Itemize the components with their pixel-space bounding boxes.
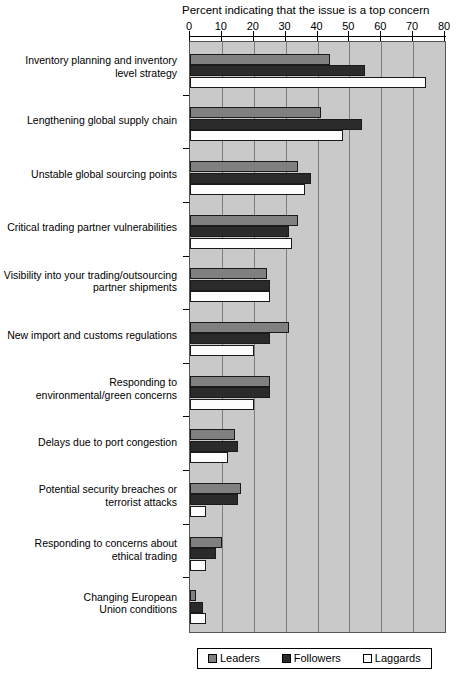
bar-laggards xyxy=(190,291,270,302)
bar-laggards xyxy=(190,184,305,195)
legend-swatch-followers xyxy=(282,654,291,663)
bar-group xyxy=(190,149,445,203)
category-label: New import and customs regulations xyxy=(0,329,177,342)
chart-root: Percent indicating that the issue is a t… xyxy=(0,0,464,684)
bar-group xyxy=(190,310,445,364)
bar-followers xyxy=(190,602,203,613)
category-label: Unstable global sourcing points xyxy=(0,168,177,181)
category-label: Critical trading partner vulnerabilities xyxy=(0,221,177,234)
bar-laggards xyxy=(190,506,206,517)
bar-group xyxy=(190,364,445,418)
plot-area xyxy=(189,41,446,633)
bar-laggards xyxy=(190,399,254,410)
legend-item-leaders[interactable]: Leaders xyxy=(208,652,260,665)
legend-item-laggards[interactable]: Laggards xyxy=(363,652,421,665)
bar-leaders xyxy=(190,107,321,118)
bar-followers xyxy=(190,548,216,559)
legend-swatch-leaders xyxy=(208,654,217,663)
bar-followers xyxy=(190,173,311,184)
legend-item-followers[interactable]: Followers xyxy=(282,652,341,665)
legend-label: Leaders xyxy=(220,652,260,665)
bar-group xyxy=(190,578,445,632)
bar-group xyxy=(190,96,445,150)
category-label: Potential security breaches orterrorist … xyxy=(0,483,177,508)
category-label: Visibility into your trading/outsourcing… xyxy=(0,269,177,294)
bar-leaders xyxy=(190,590,196,601)
bar-leaders xyxy=(190,161,298,172)
category-label-line: Delays due to port congestion xyxy=(0,436,177,449)
category-label-line: ethical trading xyxy=(0,550,177,563)
y-axis-category-labels: Inventory planning and inventorylevel st… xyxy=(0,41,185,633)
category-label-line: terrorist attacks xyxy=(0,496,177,509)
bar-laggards xyxy=(190,452,228,463)
bar-group xyxy=(190,471,445,525)
category-label-line: Potential security breaches or xyxy=(0,483,177,496)
bar-laggards xyxy=(190,613,206,624)
bar-leaders xyxy=(190,215,298,226)
legend-label: Followers xyxy=(294,652,341,665)
category-label-line: level strategy xyxy=(0,67,177,80)
bar-followers xyxy=(190,65,365,76)
bar-followers xyxy=(190,441,238,452)
bar-laggards xyxy=(190,560,206,571)
bar-group xyxy=(190,257,445,311)
category-label-line: partner shipments xyxy=(0,281,177,294)
bar-followers xyxy=(190,226,289,237)
category-label-line: Lengthening global supply chain xyxy=(0,114,177,127)
category-label-line: New import and customs regulations xyxy=(0,329,177,342)
bar-followers xyxy=(190,387,270,398)
x-axis-tick-labels: 01020304050607080 xyxy=(189,20,446,34)
bar-group xyxy=(190,417,445,471)
category-label: Responding toenvironmental/green concern… xyxy=(0,376,177,401)
category-label-line: Unstable global sourcing points xyxy=(0,168,177,181)
bar-leaders xyxy=(190,54,330,65)
bar-leaders xyxy=(190,429,235,440)
bar-group xyxy=(190,42,445,96)
bar-leaders xyxy=(190,268,267,279)
legend-label: Laggards xyxy=(375,652,421,665)
bar-laggards xyxy=(190,345,254,356)
bar-group xyxy=(190,203,445,257)
category-label: Inventory planning and inventorylevel st… xyxy=(0,54,177,79)
category-label-line: environmental/green concerns xyxy=(0,389,177,402)
category-label-line: Inventory planning and inventory xyxy=(0,54,177,67)
category-label: Changing EuropeanUnion conditions xyxy=(0,591,177,616)
legend-swatch-laggards xyxy=(363,654,372,663)
category-label: Responding to concerns aboutethical trad… xyxy=(0,537,177,562)
bar-leaders xyxy=(190,322,289,333)
category-label-line: Union conditions xyxy=(0,603,177,616)
category-label-line: Responding to concerns about xyxy=(0,537,177,550)
chart-title: Percent indicating that the issue is a t… xyxy=(182,4,464,17)
bar-followers xyxy=(190,494,238,505)
category-label: Delays due to port congestion xyxy=(0,436,177,449)
bar-leaders xyxy=(190,483,241,494)
chart-legend: LeadersFollowersLaggards xyxy=(197,648,432,669)
category-label-line: Visibility into your trading/outsourcing xyxy=(0,269,177,282)
bar-laggards xyxy=(190,77,426,88)
category-label-line: Changing European xyxy=(0,591,177,604)
bar-laggards xyxy=(190,238,292,249)
category-label-line: Critical trading partner vulnerabilities xyxy=(0,221,177,234)
bar-followers xyxy=(190,280,270,291)
category-label-line: Responding to xyxy=(0,376,177,389)
bar-leaders xyxy=(190,537,222,548)
bar-followers xyxy=(190,119,362,130)
x-axis-line xyxy=(189,36,446,37)
bar-laggards xyxy=(190,130,343,141)
bar-followers xyxy=(190,333,270,344)
category-label: Lengthening global supply chain xyxy=(0,114,177,127)
bar-leaders xyxy=(190,376,270,387)
bar-group xyxy=(190,525,445,579)
